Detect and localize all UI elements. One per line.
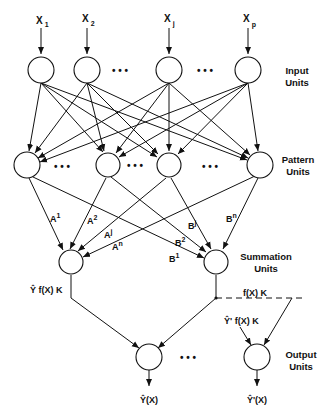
input-node-2 <box>74 57 100 83</box>
input-label-x2: X2 <box>82 13 95 27</box>
summation-node-b <box>204 250 228 274</box>
output-ellipsis: • • • <box>180 352 197 363</box>
input-node-j <box>156 57 182 83</box>
summation-units <box>59 250 228 274</box>
input-labels: X1 X2 Xj Xp <box>36 13 256 29</box>
input-ellipsis-1: • • • <box>112 65 129 76</box>
input-ellipsis-2: • • • <box>197 65 214 76</box>
output2-input-label: Ŷ' f(X) K <box>224 315 259 326</box>
weight-bn: Bn <box>226 212 237 224</box>
output-units <box>136 344 270 370</box>
output-label-2: Ŷ'(X) <box>247 394 267 405</box>
pattern-units <box>14 152 273 178</box>
summation-a-output-label: Ŷ f(X) K <box>30 284 63 295</box>
grnn-architecture-diagram: X1 X2 Xj Xp <box>0 0 330 417</box>
pattern-units-label-2: Units <box>286 166 310 177</box>
input-node-1 <box>28 57 54 83</box>
output-node-2 <box>244 344 270 370</box>
summation-b-output-label: f(X) K <box>243 288 267 298</box>
output-units-label-1: Output <box>285 349 317 360</box>
weight-bj: Bj <box>188 219 197 231</box>
weight-a1: A1 <box>50 212 61 224</box>
input-label-x1: X1 <box>36 15 49 28</box>
input-units-label-2: Units <box>285 77 309 88</box>
pattern-ellipsis-1: • • • <box>54 161 71 172</box>
pattern-ellipsis-3: • • • <box>202 161 219 172</box>
input-arrows <box>41 28 248 54</box>
input-units-label-1: Input <box>285 65 309 76</box>
output-arrows <box>149 370 257 386</box>
summation-units-label-1: Summation <box>240 251 292 262</box>
weight-b2: B2 <box>175 236 186 248</box>
pattern-node-1 <box>14 152 40 178</box>
weight-b1: B1 <box>169 252 180 264</box>
pattern-node-2 <box>96 153 120 177</box>
pattern-node-n <box>247 152 273 178</box>
pattern-node-j <box>157 153 181 177</box>
summation-units-label-2: Units <box>254 263 278 274</box>
input-label-xj: Xj <box>164 13 175 28</box>
summation-to-output-edges <box>71 275 306 348</box>
weight-an: An <box>112 240 123 252</box>
weight-a2: A2 <box>87 214 98 226</box>
pattern-ellipsis-2: • • • <box>127 160 144 171</box>
summation-node-a <box>59 250 83 274</box>
input-to-pattern-edges <box>29 83 258 162</box>
output-units-label-2: Units <box>289 361 313 372</box>
output-label-1: Ŷ(X) <box>140 394 158 405</box>
pattern-to-summation-edges <box>29 176 258 258</box>
pattern-units-label-1: Pattern <box>282 154 315 165</box>
ellipses: • • • • • • • • • • • • • • • • • • <box>54 65 219 363</box>
junction-dot <box>214 296 217 299</box>
output-node-1 <box>136 344 162 370</box>
input-units <box>28 57 261 83</box>
weight-aj: Aj <box>104 228 113 240</box>
input-node-p <box>235 57 261 83</box>
input-label-xp: Xp <box>243 13 256 29</box>
